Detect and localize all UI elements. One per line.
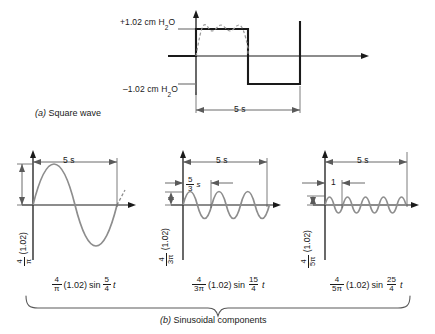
component-1-amp-den: π (24, 257, 33, 266)
component-1-eq-fn: sin (89, 280, 101, 290)
component-3-period-arrow-left (317, 180, 325, 186)
component-3-span-label: 5 s (357, 155, 369, 165)
component-2-y-arrow (180, 150, 186, 158)
component-2-eq-value: (1.02) (208, 280, 232, 290)
component-2-period-arrow-right (211, 180, 219, 186)
component-2-amplitude-label: 4 3π (1.02) (158, 228, 174, 266)
brace-path (26, 296, 410, 316)
component-2-period-fraction: 5 3 (186, 176, 194, 193)
component-1-eq-freq-num: 5 (103, 276, 111, 284)
component-2-eq-fn: sin (233, 280, 245, 290)
component-3-eq-amp-num: 4 (333, 276, 341, 284)
lower-label-tail: O (171, 84, 178, 94)
component-1-span-arrow-right (109, 159, 117, 165)
component-3-eq-freq-fraction: 25 4 (385, 276, 398, 293)
component-2-eq-amp-fraction: 4 3π (192, 276, 206, 293)
panel-b-caption: (b) Sinusoidal components (160, 315, 267, 325)
component-1-eq-freq-fraction: 5 4 (103, 276, 111, 293)
component-3-equation: 4 5π (1.02) sin 25 4 t (330, 276, 402, 293)
component-3-eq-var: t (400, 280, 403, 290)
component-2-period-label: 5 3 s (186, 176, 200, 193)
panel-b-brace (0, 294, 435, 334)
upper-label-tail: O (168, 17, 175, 27)
panel-a-upper-level-label: +1.02 cm H2O (120, 17, 175, 29)
component-3-eq-freq-num: 25 (385, 276, 398, 284)
component-2-span-label: 5 s (216, 155, 228, 165)
component-3-span-arrow-right (399, 159, 407, 165)
component-2-period-num: 5 (186, 176, 194, 184)
component-1-amp-fraction: 4 π (16, 257, 32, 266)
panel-a-period-label: 5 s (234, 104, 246, 114)
component-3-amp-num: 4 (300, 257, 308, 265)
panel-a-y-arrow (193, 10, 199, 18)
component-1-y-arrow (30, 150, 36, 158)
component-2-amp-num: 4 (158, 255, 166, 263)
component-3-period-label: 1 (331, 177, 336, 187)
component-1-span-label: 5 s (63, 155, 75, 165)
component-2-x-arrow (273, 202, 281, 208)
component-3-y-arrow (322, 150, 328, 158)
lower-label-sub: 2 (167, 91, 171, 98)
component-2-eq-amp-num: 4 (195, 276, 203, 284)
component-3-amp-value: (1.02) (302, 230, 312, 252)
component-2-eq-freq-num: 15 (247, 276, 260, 284)
component-3-span-arrow-left (325, 159, 333, 165)
component-2-eq-freq-den: 4 (249, 284, 257, 293)
panel-a-caption-text: Square wave (49, 108, 102, 118)
component-1-span-arrow-left (33, 159, 41, 165)
component-1-amp-arrow-up (19, 164, 25, 172)
component-3-eq-amp-fraction: 4 5π (330, 276, 344, 293)
panel-a-lower-level-label: –1.02 cm H2O (123, 84, 178, 96)
component-3-period-arrow-right (342, 180, 350, 186)
component-3-amp-fraction: 4 5π (300, 255, 316, 268)
component-2-amp-value: (1.02) (160, 228, 170, 250)
upper-label-text: +1.02 cm H (120, 17, 165, 27)
component-2-eq-var: t (262, 280, 265, 290)
component-1-eq-freq-den: 4 (103, 284, 111, 293)
component-3-eq-fn: sin (371, 280, 383, 290)
panel-a-caption-letter: (a) (35, 108, 46, 118)
component-2-amp-fraction: 4 3π (158, 253, 174, 266)
panel-a-x-arrow (361, 53, 369, 59)
panel-b-caption-letter: (b) (160, 315, 171, 325)
component-2-eq-amp-den: 3π (192, 284, 206, 293)
component-3-amplitude-label: 4 5π (1.02) (300, 230, 316, 268)
component-2-amp-arrow-up (168, 197, 174, 205)
component-1-amp-value: (1.02) (18, 232, 28, 254)
panel-b-caption-text: Sinusoidal components (174, 315, 267, 325)
component-1-eq-value: (1.02) (64, 280, 88, 290)
component-1-continuation-dash (117, 190, 125, 205)
panel-a-period-arrow-right (292, 107, 300, 113)
component-3-eq-value: (1.02) (346, 280, 370, 290)
panel-a-caption: (a) Square wave (35, 108, 101, 118)
upper-label-sub: 2 (165, 24, 169, 31)
component-1-eq-amp-fraction: 4 π (52, 276, 62, 293)
component-2-amp-den: 3π (166, 253, 175, 266)
component-3-eq-freq-den: 4 (387, 284, 395, 293)
panel-a-period-arrow-left (196, 107, 204, 113)
component-1-eq-amp-den: π (52, 284, 62, 293)
figure-fourier-square-wave: +1.02 cm H2O –1.02 cm H2O 5 s (a) Square… (0, 0, 435, 334)
component-2-equation: 4 3π (1.02) sin 15 4 t (192, 276, 264, 293)
component-3-amp-den: 5π (308, 255, 317, 268)
lower-label-text: –1.02 cm H (123, 84, 167, 94)
component-1-amplitude-label: 4 π (1.02) (16, 232, 32, 266)
component-2-eq-freq-fraction: 15 4 (247, 276, 260, 293)
component-1-equation: 4 π (1.02) sin 5 4 t (52, 276, 116, 293)
component-2-period-arrow-left (175, 180, 183, 186)
component-2-period-den: 3 (186, 184, 194, 193)
component-1-x-arrow (128, 202, 136, 208)
component-3-x-arrow (411, 202, 419, 208)
component-1-amp-arrow-down (19, 197, 25, 205)
component-1-eq-amp-num: 4 (53, 276, 61, 284)
component-2-span-arrow-right (259, 159, 267, 165)
component-1-amp-num: 4 (16, 257, 24, 265)
component-2-span-arrow-left (183, 159, 191, 165)
component-1-eq-var: t (113, 280, 116, 290)
component-2-period-unit: s (196, 180, 200, 189)
component-3-eq-amp-den: 5π (330, 284, 344, 293)
